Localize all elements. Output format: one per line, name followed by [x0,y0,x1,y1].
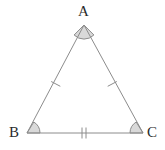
geometry-figure-canvas: A B C [0,0,165,150]
angle-arc-group [27,25,143,133]
vertex-label-c: C [147,125,157,140]
tick-mark-side-ac [108,82,117,87]
vertex-label-b: B [9,125,19,140]
angle-arc-b [27,122,40,133]
triangle-diagram [0,0,165,150]
angle-arc-c [130,122,143,133]
congruence-tick-group [51,82,117,139]
vertex-label-a: A [78,4,89,19]
triangle-outline [27,25,143,133]
